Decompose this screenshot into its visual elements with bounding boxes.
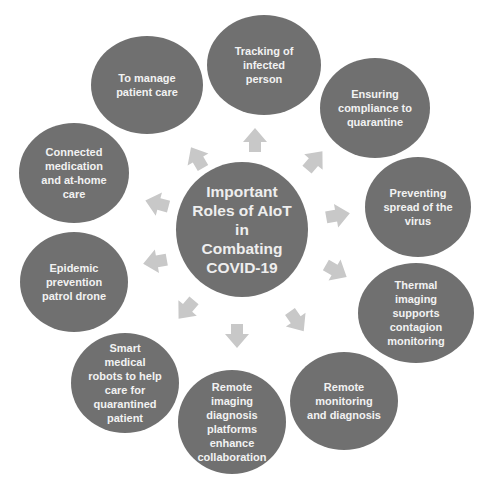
node-line: care for — [88, 383, 161, 397]
node-line: patient care — [116, 85, 178, 99]
node-tracking: Tracking of infected person — [207, 15, 321, 115]
center-line: COVID-19 — [192, 258, 291, 277]
node-line: and at-home — [41, 173, 106, 187]
node-line: imaging — [387, 292, 444, 306]
node-medication: Connected medication and at-home care — [19, 123, 129, 223]
node-line: medical — [88, 355, 161, 369]
arrow-icon — [320, 255, 353, 288]
node-thermal: Thermal imaging supports contagion monit… — [358, 263, 474, 363]
node-line: monitoring — [387, 334, 444, 348]
node-line: person — [235, 72, 294, 86]
arrow-icon — [181, 141, 214, 174]
node-line: enhance — [197, 436, 266, 450]
node-patient-care: To manage patient care — [91, 36, 203, 134]
node-line: platforms — [197, 422, 266, 436]
node-line: supports — [387, 306, 444, 320]
node-compliance: Ensuring compliance to quarantine — [320, 58, 430, 158]
diagram-canvas: Important Roles of AIoT in Combating COV… — [0, 0, 487, 477]
arrow-icon — [298, 144, 332, 178]
node-line: quarantine — [338, 115, 412, 129]
arrow-icon — [225, 324, 249, 348]
node-remote-imaging: Remote imaging diagnosis platforms enhan… — [178, 370, 286, 474]
node-remote-monitoring: Remote monitoring and diagnosis — [290, 352, 398, 450]
arrow-icon — [142, 189, 171, 218]
arrow-icon — [141, 248, 169, 276]
node-line: diagnosis — [197, 408, 266, 422]
node-line: contagion — [387, 320, 444, 334]
node-line: Epidemic — [42, 261, 106, 275]
arrow-icon — [280, 305, 313, 338]
node-preventing: Preventing spread of the virus — [365, 157, 471, 257]
node-line: Ensuring — [338, 87, 412, 101]
node-line: Remote — [197, 380, 266, 394]
node-line: prevention — [42, 275, 106, 289]
node-line: infected — [235, 58, 294, 72]
node-line: Connected — [41, 145, 106, 159]
node-line: care — [41, 187, 106, 201]
node-line: medication — [41, 159, 106, 173]
node-drone: Epidemic prevention patrol drone — [20, 232, 128, 332]
center-line: Important — [192, 182, 291, 201]
center-line: in — [192, 220, 291, 239]
node-line: virus — [383, 214, 452, 228]
node-line: robots to help — [88, 369, 161, 383]
node-line: monitoring — [307, 394, 381, 408]
node-line: patient — [88, 411, 161, 425]
node-line: Thermal — [387, 278, 444, 292]
node-line: and diagnosis — [307, 408, 381, 422]
node-line: Smart — [88, 341, 161, 355]
arrow-icon — [324, 201, 352, 229]
node-line: imaging — [197, 394, 266, 408]
node-line: Preventing — [383, 186, 452, 200]
node-line: spread of the — [383, 200, 452, 214]
arrow-icon — [169, 293, 203, 327]
arrow-icon — [243, 128, 267, 152]
center-node: Important Roles of AIoT in Combating COV… — [176, 162, 308, 297]
node-line: quarantined — [88, 397, 161, 411]
center-line: Combating — [192, 239, 291, 258]
node-line: Remote — [307, 380, 381, 394]
center-line: Roles of AIoT — [192, 201, 291, 220]
node-line: To manage — [116, 71, 178, 85]
node-line: patrol drone — [42, 289, 106, 303]
node-line: Tracking of — [235, 44, 294, 58]
node-line: collaboration — [197, 450, 266, 464]
node-line: compliance to — [338, 101, 412, 115]
node-robots: Smart medical robots to help care for qu… — [71, 333, 179, 433]
